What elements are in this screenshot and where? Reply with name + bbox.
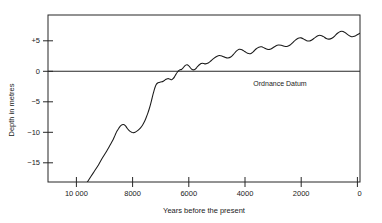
- y-tick-label: −15: [27, 158, 40, 167]
- ordnance-datum-annotation: Ordnance Datum: [253, 80, 306, 87]
- x-tick-label: 2000: [293, 189, 310, 198]
- plot-frame: [48, 15, 360, 182]
- y-tick-label: −10: [27, 128, 40, 137]
- x-axis-tick-labels: 10 000 8000 6000 4000 2000 0: [65, 189, 362, 198]
- x-axis-title: Years before the present: [163, 206, 246, 215]
- x-tick-label: 6000: [180, 189, 197, 198]
- y-axis-tick-labels: +5 0 −5 −10 −15: [27, 36, 40, 167]
- x-tick-label: 0: [357, 189, 361, 198]
- y-axis-title: Depth in metres: [7, 83, 16, 136]
- y-tick-label: 0: [36, 67, 40, 76]
- x-tick-label: 8000: [124, 189, 141, 198]
- x-tick-label: 4000: [237, 189, 254, 198]
- x-tick-label: 10 000: [65, 189, 88, 198]
- sea-level-chart: +5 0 −5 −10 −15 10 000 8000 6000 4000 20…: [0, 0, 382, 223]
- chart-svg: +5 0 −5 −10 −15 10 000 8000 6000 4000 20…: [0, 0, 382, 223]
- sea-level-curve: [87, 31, 360, 182]
- y-tick-label: +5: [31, 36, 40, 45]
- y-tick-label: −5: [31, 97, 40, 106]
